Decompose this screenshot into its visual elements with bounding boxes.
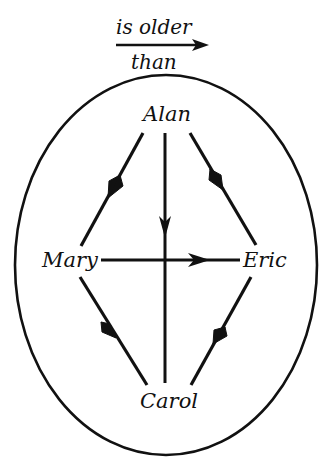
edge-carol-eric xyxy=(191,277,251,385)
node-alan: Alan xyxy=(143,104,191,125)
edge-alan-carol xyxy=(159,133,171,383)
edge-mary-eric xyxy=(101,253,240,267)
node-eric: Eric xyxy=(243,250,287,271)
legend-label-bottom: than xyxy=(131,52,177,72)
edge-alan-mary xyxy=(81,133,143,246)
legend-label-top: is older xyxy=(116,17,192,37)
node-mary: Mary xyxy=(42,250,98,271)
node-carol: Carol xyxy=(140,391,198,412)
edge-alan-eric xyxy=(190,133,256,245)
edge-mary-carol xyxy=(80,277,147,385)
